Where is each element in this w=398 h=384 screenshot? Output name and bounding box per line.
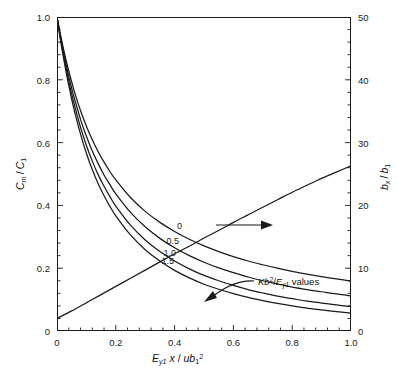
curve-label-0-5: 0.5	[166, 236, 179, 246]
y-left-tick-label: 0.6	[37, 137, 50, 148]
curve-label-1-5: 1.5	[161, 256, 174, 266]
y-right-tick-label: 20	[358, 200, 369, 211]
y-right-tick-label: 0	[358, 326, 363, 337]
x-tick-label: 0.2	[109, 337, 122, 348]
x-axis-title: Ey1 x / ub12	[152, 352, 203, 366]
y-right-tick-label: 50	[358, 12, 369, 23]
x-tick-label: 0.8	[286, 337, 299, 348]
y-left-tick-label: 0.8	[37, 74, 50, 85]
y-left-tick-label: 1.0	[37, 12, 50, 23]
y-right-tick-label: 40	[358, 74, 369, 85]
y-left-tick-label: 0	[45, 326, 50, 337]
x-tick-label: 0.6	[227, 337, 240, 348]
y-right-tick-label: 30	[358, 137, 369, 148]
x-tick-label: 0	[54, 337, 59, 348]
y-left-tick-label: 0.2	[37, 263, 50, 274]
y-right-tick-label: 10	[358, 263, 369, 274]
annotation-leader-arrow	[196, 278, 258, 304]
x-tick-label: 0.4	[168, 337, 181, 348]
curve-label-0: 0	[177, 221, 182, 231]
series-curve-1-5	[57, 17, 351, 313]
chart-annotation-label: Kb2/Ey1 values	[258, 276, 319, 288]
x-tick-label: 1.0	[344, 337, 357, 348]
chart-figure: 00.20.40.60.81.0 00.20.40.60.81.0 010203…	[0, 0, 398, 384]
y-axis-right-title: bx / b1	[378, 164, 392, 190]
y-axis-left-title: Cm / C1	[14, 158, 28, 190]
series-curve-0	[57, 17, 351, 281]
right-axis-pointer-arrow	[215, 215, 277, 235]
y-left-tick-label: 0.4	[37, 200, 50, 211]
series-curve-1-0	[57, 17, 351, 307]
